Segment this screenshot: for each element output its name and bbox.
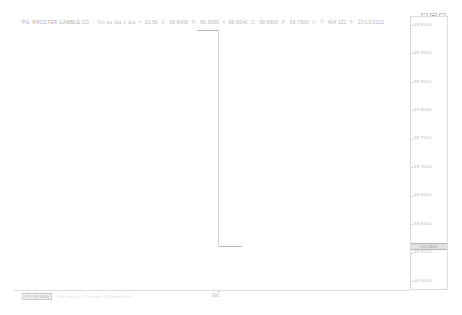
quote-high-label: H:: [192, 20, 197, 25]
quote-open-value: 69.9400: [169, 20, 188, 25]
ohlc-bar: [218, 30, 219, 246]
price-axis-tick-label: 69.5500: [414, 249, 431, 254]
quote-total-label: T:: [320, 20, 324, 25]
price-axis-tick-mark: [411, 196, 413, 197]
quote-symbol: PG: [22, 20, 29, 25]
quote-total-value: 404 222: [328, 20, 347, 25]
price-axis-tick-mark: [411, 110, 413, 111]
price-axis-tick-label: 69.5000: [414, 278, 431, 283]
price-axis[interactable]: 69.5600 69.950069.900069.850069.800069.7…: [410, 16, 448, 290]
price-axis-tick-mark: [411, 139, 413, 140]
price-axis-tick-label: 69.9500: [414, 22, 431, 27]
price-axis-tick-mark: [411, 82, 413, 83]
legend-note: Fin de día · Procter & Gamble Co: [58, 293, 133, 300]
legend-chip[interactable]: PG 69.5600: [22, 293, 52, 300]
chart-window: PG PROCTER GAMBLE CO - Fin de día 1 día …: [14, 12, 448, 297]
price-axis-tick-mark: [411, 25, 413, 26]
quote-company: PROCTER GAMBLE CO: [33, 20, 90, 25]
plot-area[interactable]: PG 69.5600 Fin de día · Procter & Gamble…: [14, 28, 410, 290]
ohlc-close-tick: [219, 246, 242, 247]
price-axis-tick-mark: [411, 253, 413, 254]
quote-high-value: 69.9000: [200, 20, 219, 25]
quote-prev-label: P:: [282, 20, 287, 25]
x-axis: [14, 290, 410, 291]
quote-prev-value: 69.7900: [290, 20, 309, 25]
price-axis-tick-mark: [411, 167, 413, 168]
price-axis-tick-mark: [411, 281, 413, 282]
price-axis-tick-label: 69.8000: [414, 107, 431, 112]
price-axis-tick-label: 69.6500: [414, 192, 431, 197]
price-axis-tick-label: 69.9000: [414, 50, 431, 55]
quote-separator: -: [93, 20, 95, 25]
price-axis-tick-label: 69.7000: [414, 164, 431, 169]
price-axis-tick-label: 69.6000: [414, 221, 431, 226]
quote-volume-label: V:: [312, 20, 317, 25]
price-axis-tick-mark: [411, 224, 413, 225]
quote-close-value: 69.5600: [259, 20, 278, 25]
quote-bar: PG PROCTER GAMBLE CO - Fin de día 1 día …: [22, 17, 384, 27]
quote-low-value: 69.5640: [229, 20, 248, 25]
ohlc-open-tick: [197, 30, 218, 31]
quote-date-label: F:: [350, 20, 355, 25]
quote-period: Fin de día 1 día: [98, 20, 136, 25]
ohlc-high-low-stem: [218, 30, 219, 246]
price-axis-tick-mark: [411, 53, 413, 54]
price-axis-tick-label: 69.7500: [414, 135, 431, 140]
x-axis-tick-label: Dic: [212, 293, 219, 298]
quote-date-value: 23/12/2012: [358, 20, 385, 25]
quote-equals: =: [139, 20, 142, 25]
quote-close-label: C:: [251, 20, 256, 25]
quote-open-label: A:: [161, 20, 166, 25]
legend-note-text: Fin de día · Procter & Gamble Co: [58, 294, 133, 299]
legend-chip-label: PG 69.5600: [25, 294, 49, 299]
quote-period-value: 23.59: [145, 20, 158, 25]
quote-low-label: =: [222, 20, 225, 25]
price-axis-tick-label: 69.8500: [414, 79, 431, 84]
